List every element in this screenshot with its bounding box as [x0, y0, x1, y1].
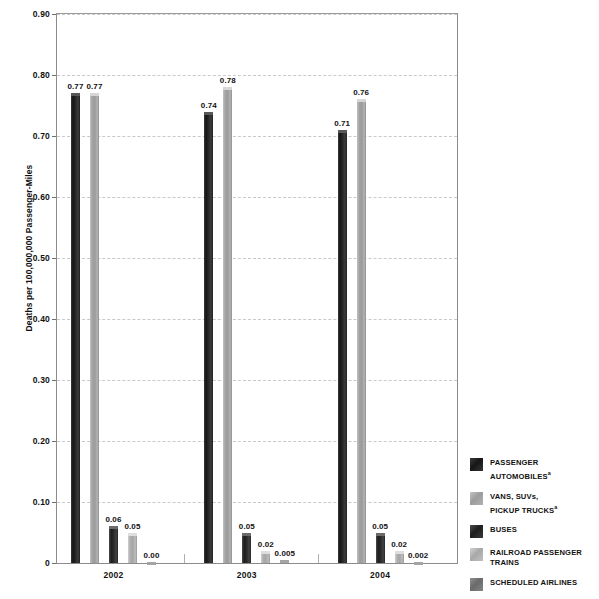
- bar-cap: [242, 533, 251, 536]
- legend-swatch: [470, 578, 483, 591]
- gridline: [57, 380, 457, 381]
- bar: [242, 533, 251, 564]
- group-separator: [184, 554, 185, 563]
- bar-value-label: 0.71: [328, 119, 357, 128]
- legend-label: PASSENGERAUTOMOBILESa: [490, 458, 551, 482]
- bar-cap: [357, 99, 366, 102]
- bar: [223, 87, 232, 563]
- x-axis-tick-label: 2002: [74, 570, 154, 580]
- legend-label: BUSES: [490, 525, 517, 535]
- legend-item[interactable]: RAILROAD PASSENGERTRAINS: [470, 548, 598, 568]
- bar: [280, 560, 289, 563]
- gridline: [57, 319, 457, 320]
- group-separator: [318, 554, 319, 563]
- bar-cap: [376, 533, 385, 536]
- legend-label: VANS, SUVs,PICKUP TRUCKSa: [490, 492, 557, 516]
- legend-swatch: [470, 458, 483, 471]
- bar-value-label: 0.02: [251, 540, 280, 549]
- bar-cap: [109, 526, 118, 529]
- legend-label: SCHEDULED AIRLINES: [490, 578, 577, 588]
- bar: [414, 562, 423, 564]
- bar-cap: [261, 551, 270, 554]
- bar-face: [357, 99, 366, 563]
- y-axis-tick-label: 0.70: [2, 131, 50, 141]
- bar-cap: [395, 551, 404, 554]
- bar-value-label: 0.05: [118, 522, 147, 531]
- bar-value-label: 0.02: [385, 540, 414, 549]
- plot-area: [56, 13, 458, 564]
- y-axis-tick-label: 0: [2, 558, 50, 568]
- bar-value-label: 0.74: [194, 101, 223, 110]
- bar: [261, 551, 270, 563]
- bar-face: [128, 533, 137, 564]
- gridline: [57, 197, 457, 198]
- bar-cap: [223, 87, 232, 90]
- bar: [90, 93, 99, 563]
- gridline: [57, 441, 457, 442]
- bar-face: [223, 87, 232, 563]
- bar-value-label: 0.05: [232, 522, 261, 531]
- bar-cap: [71, 93, 80, 96]
- bar-value-label: 0.05: [366, 522, 395, 531]
- bar: [71, 93, 80, 563]
- bar-cap: [338, 130, 347, 133]
- legend-swatch: [470, 525, 483, 538]
- x-axis-tick-label: 2003: [207, 570, 287, 580]
- y-axis-tick-label: 0.10: [2, 497, 50, 507]
- bar-cap: [90, 93, 99, 96]
- bar-cap: [414, 562, 423, 565]
- bar: [128, 533, 137, 564]
- gridline: [57, 136, 457, 137]
- bar-cap: [280, 560, 289, 563]
- gridline: [57, 75, 457, 76]
- bar-cap: [147, 562, 156, 565]
- y-axis-tick-label: 0.60: [2, 192, 50, 202]
- legend-item[interactable]: VANS, SUVs,PICKUP TRUCKSa: [470, 492, 598, 516]
- legend-item[interactable]: PASSENGERAUTOMOBILESa: [470, 458, 598, 482]
- y-axis-tick-label: 0.30: [2, 375, 50, 385]
- bar-value-label: 0.005: [270, 549, 299, 558]
- bar-face: [90, 93, 99, 563]
- bar: [357, 99, 366, 563]
- bar-face: [338, 130, 347, 563]
- y-axis-tick-label: 0.90: [2, 9, 50, 19]
- legend-item[interactable]: BUSES: [470, 525, 598, 538]
- bar: [109, 526, 118, 563]
- bar-cap: [204, 112, 213, 115]
- bar-value-label: 0.77: [80, 82, 109, 91]
- bar: [147, 562, 156, 563]
- chart-root: Deaths per 100,000,000 Passenger-Miles 0…: [0, 0, 599, 599]
- y-axis-tick-label: 0.50: [2, 253, 50, 263]
- bar: [376, 533, 385, 564]
- x-axis-tick-label: 2004: [340, 570, 420, 580]
- bar-face: [376, 533, 385, 564]
- chart-legend: PASSENGERAUTOMOBILESaVANS, SUVs,PICKUP T…: [470, 458, 598, 599]
- bar: [204, 112, 213, 563]
- bar-value-label: 0.002: [404, 551, 433, 560]
- legend-label: RAILROAD PASSENGERTRAINS: [490, 548, 582, 568]
- y-axis-tick-label: 0.20: [2, 436, 50, 446]
- gridline: [57, 502, 457, 503]
- bar-face: [242, 533, 251, 564]
- bar-cap: [128, 533, 137, 536]
- bar-value-label: 0.76: [347, 88, 376, 97]
- bar-face: [109, 526, 118, 563]
- bar: [395, 551, 404, 563]
- legend-swatch: [470, 548, 483, 561]
- bar-value-label: 0.00: [137, 551, 166, 560]
- gridline: [57, 14, 457, 15]
- bar-face: [71, 93, 80, 563]
- gridline: [57, 258, 457, 259]
- bar-face: [204, 112, 213, 563]
- legend-item[interactable]: SCHEDULED AIRLINES: [470, 578, 598, 591]
- bar-value-label: 0.78: [213, 76, 242, 85]
- y-axis-tick-label: 0.40: [2, 314, 50, 324]
- bar: [338, 130, 347, 563]
- legend-swatch: [470, 492, 483, 505]
- y-axis-tick-label: 0.80: [2, 70, 50, 80]
